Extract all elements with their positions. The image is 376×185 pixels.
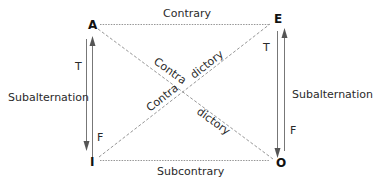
contradictory-label-part1-upper: Contra xyxy=(151,55,189,87)
vertex-o: O xyxy=(276,156,286,170)
contrary-label: Contrary xyxy=(163,7,211,20)
contradictory-label-part2-lower: dictory xyxy=(194,105,233,138)
contradictory-label-part2-upper: dictory xyxy=(188,47,226,81)
subcontrary-label: Subcontrary xyxy=(157,165,225,178)
arrow-down-icon xyxy=(84,141,90,151)
subalternation-label-left: Subalternation xyxy=(8,91,89,104)
vertex-a: A xyxy=(88,18,98,32)
contradictory-diagonal-i-e xyxy=(99,24,270,157)
truth-label-right-bottom: F xyxy=(290,124,296,137)
vertex-i: I xyxy=(90,155,94,169)
arrow-up-icon xyxy=(282,28,288,38)
truth-label-left-top: T xyxy=(74,60,82,73)
square-of-opposition-diagram: A E I O Contrary Subcontrary Subalternat… xyxy=(0,0,376,185)
contradictory-diagonal-a-o xyxy=(98,29,273,159)
vertex-e: E xyxy=(274,12,282,26)
truth-label-right-top: T xyxy=(262,41,270,54)
truth-label-left-bottom: F xyxy=(97,131,103,144)
subalternation-label-right: Subalternation xyxy=(292,88,373,101)
arrow-up-icon xyxy=(90,36,96,46)
